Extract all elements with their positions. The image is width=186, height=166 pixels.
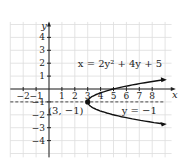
y-axis-label: y [40, 20, 47, 31]
parabola-graph: xy−2−1123456784321−1−2−3−4x = 2y² + 4y +… [0, 0, 186, 166]
y-tick-label: −4 [32, 136, 46, 146]
symmetry-label: y = −1 [121, 105, 157, 116]
y-tick-label: 3 [39, 45, 45, 55]
y-tick-label: −3 [32, 123, 46, 133]
x-tick-label: 1 [59, 91, 65, 101]
chart: xy−2−1123456784321−1−2−3−4x = 2y² + 4y +… [0, 0, 186, 166]
curve-arrow-icon [160, 122, 167, 127]
equation-label: x = 2y² + 4y + 5 [78, 58, 162, 69]
y-tick-label: 2 [39, 58, 45, 68]
x-tick-label: 2 [72, 91, 78, 101]
x-axis-label: x [172, 89, 178, 100]
x-tick-label: 8 [149, 91, 155, 101]
x-tick-label: 7 [136, 91, 142, 101]
vertex-point [85, 99, 90, 104]
y-axis-arrow-icon [47, 22, 51, 27]
x-tick-label: 6 [124, 91, 130, 101]
y-tick-label: −2 [32, 110, 45, 120]
x-tick-label: −2 [17, 91, 30, 101]
y-tick-label: 1 [39, 71, 45, 81]
y-tick-label: 4 [39, 32, 45, 42]
curve-arrow-icon [161, 77, 167, 82]
vertex-label: (3, −1) [48, 105, 83, 116]
x-tick-label: 5 [111, 91, 117, 101]
